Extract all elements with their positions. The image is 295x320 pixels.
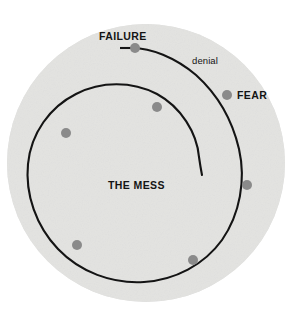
right-node-dot[interactable] (242, 180, 252, 190)
background-disc-texture (7, 24, 285, 302)
left-node-dot[interactable] (61, 128, 71, 138)
bottom-right-node-dot[interactable] (188, 255, 198, 265)
diagram-canvas (0, 0, 295, 320)
fear-node-dot[interactable] (222, 90, 232, 100)
failure-spiral-diagram: FAILURE denial FEAR THE MESS (0, 0, 295, 320)
failure-node-dot[interactable] (130, 43, 140, 53)
bottom-left-node-dot[interactable] (72, 240, 82, 250)
inner-top-node-dot[interactable] (152, 102, 162, 112)
